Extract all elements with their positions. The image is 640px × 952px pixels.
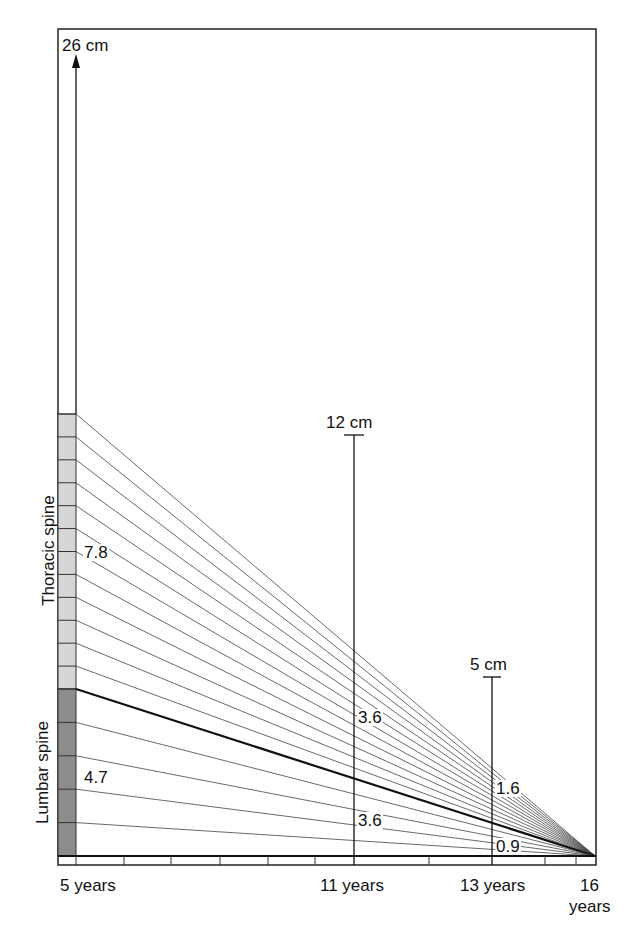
- thoracic-value-13: 1.6: [495, 780, 521, 797]
- growth-line: [76, 643, 595, 856]
- axis-label-16: 16: [580, 877, 599, 894]
- growth-line: [76, 597, 595, 856]
- marker-12cm-label: 12 cm: [326, 414, 372, 431]
- thoracic-spine-label: Thoracic spine: [40, 489, 57, 613]
- growth-line: [76, 574, 595, 856]
- spine-growth-diagram: [0, 0, 640, 952]
- growth-line: [76, 483, 595, 856]
- lumbar-value-13: 0.9: [495, 838, 521, 855]
- lumbar-value-5: 4.7: [83, 769, 109, 786]
- lumbar-column: [58, 689, 76, 856]
- lumbar-value-11: 3.6: [357, 812, 383, 829]
- growth-line: [76, 620, 595, 856]
- top-marker-label: 26 cm: [62, 37, 108, 54]
- axis-label-11-years: 11 years: [320, 877, 384, 894]
- arrow-head-icon: [72, 54, 80, 68]
- growth-line: [76, 552, 595, 857]
- thoracic-value-11: 3.6: [357, 709, 383, 726]
- axis-label-13-years: 13 years: [460, 877, 525, 894]
- lumbar-spine-label: Lumbar spine: [34, 720, 51, 826]
- axis-label-5-years: 5 years: [60, 877, 116, 894]
- thoracic-value-5: 7.8: [83, 544, 109, 561]
- growth-line: [76, 529, 595, 856]
- frame: [58, 29, 596, 865]
- thoracolumbar-line: [76, 689, 595, 856]
- axis-label-16-years: years: [569, 898, 611, 915]
- marker-5cm-label: 5 cm: [470, 656, 507, 673]
- growth-line: [76, 506, 595, 856]
